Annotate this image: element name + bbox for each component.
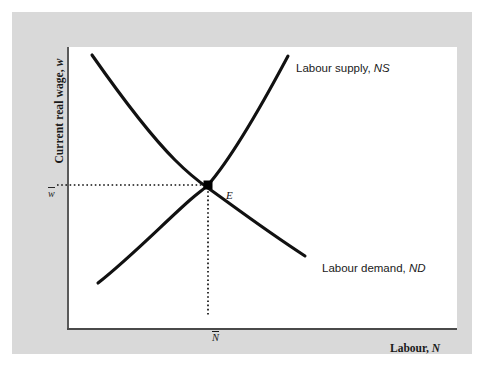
labour-supply-curve [98, 56, 288, 283]
equilibrium-point-marker [204, 181, 213, 190]
figure-container: Current real wage, w Labour, N w N Labou… [0, 0, 484, 366]
chart-svg [0, 0, 484, 366]
